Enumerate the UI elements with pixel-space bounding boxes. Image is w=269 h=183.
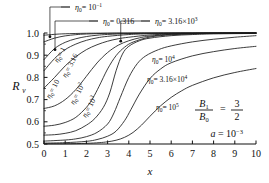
chart-background (0, 0, 269, 183)
x-tick-label: 5 (148, 148, 153, 159)
param-equals: = (220, 103, 226, 114)
x-tick-label: 0 (42, 148, 47, 159)
curve-label-eta0-3.16e4: η0= 3.16×104 (147, 74, 187, 85)
x-tick-label: 7 (190, 148, 195, 159)
chart-figure: 0.50.60.70.80.91.0012345678910xRv η0= 10… (0, 0, 269, 183)
y-tick-label: 0.8 (27, 72, 40, 83)
x-tick-label: 9 (232, 148, 237, 159)
x-tick-label: 8 (211, 148, 216, 159)
x-axis-title: x (147, 165, 153, 177)
y-tick-label: 0.9 (27, 50, 40, 61)
x-tick-label: 1 (63, 148, 68, 159)
svg-text:η0= 105: η0= 105 (156, 102, 179, 113)
x-tick-label: 6 (169, 148, 174, 159)
param-value-denominator: 2 (235, 111, 240, 122)
chart-canvas: 0.50.60.70.80.91.0012345678910xRv η0= 10… (0, 0, 269, 183)
y-tick-label: 0.6 (27, 116, 40, 127)
curve-label-eta0-3.16e3: η0= 3.16×103 (155, 16, 198, 27)
x-tick-label: 3 (105, 148, 110, 159)
y-tick-label: 1.0 (27, 28, 40, 39)
x-tick-label: 4 (126, 148, 131, 159)
param-value-numerator: 3 (235, 98, 240, 109)
curve-label-eta0-1e4: η0= 104 (152, 54, 175, 65)
x-tick-label: 2 (84, 148, 89, 159)
curve-label-eta0-1e5: η0= 105 (156, 102, 179, 113)
y-tick-label: 0.5 (27, 139, 40, 150)
svg-text:R: R (11, 79, 20, 93)
leader-endpoint-eta0-3.16e3 (119, 40, 122, 43)
svg-text:η0= 3.16×104: η0= 3.16×104 (147, 74, 187, 85)
svg-text:η0= 3.16×103: η0= 3.16×103 (155, 16, 198, 27)
svg-text:η0= 104: η0= 104 (152, 54, 175, 65)
leader-endpoint-eta0-1e-1 (49, 35, 52, 38)
y-tick-label: 0.7 (27, 94, 40, 105)
x-tick-label: 10 (251, 148, 261, 159)
